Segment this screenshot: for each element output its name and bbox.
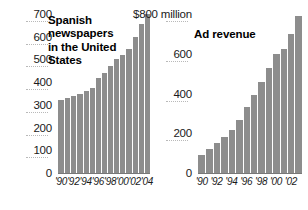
bar: [220, 137, 227, 173]
bar: [280, 49, 287, 173]
chart-panel-ad-revenue: 0200400600$800 million Ad revenue '90'92…: [154, 0, 308, 210]
bar: [272, 54, 279, 173]
x-axis-labels-right: '90'92'94'96'98'00'02: [154, 176, 308, 190]
y-tick-label: 100: [33, 144, 52, 156]
y-tick-label: 400: [33, 76, 52, 88]
x-axis-labels-left: '90'92'94'96'98'00'02'04: [0, 176, 154, 190]
x-tick-label: '96: [240, 176, 252, 187]
bar: [294, 16, 301, 173]
y-tick-stub: [26, 44, 48, 45]
x-tick-label: '98: [255, 176, 267, 187]
dual-bar-chart-figure: 0100200300400500600700 Spanishnewspapers…: [0, 0, 308, 210]
y-tick-label: 600: [173, 48, 192, 60]
bar: [198, 155, 205, 173]
y-tick-label: 400: [173, 88, 192, 100]
x-tick-label: '02: [285, 176, 297, 187]
chart-title-line: Ad revenue: [194, 28, 256, 41]
x-tick-label: '92: [210, 176, 222, 187]
chart-panel-spanish-newspapers: 0100200300400500600700 Spanishnewspapers…: [0, 0, 154, 210]
bar: [144, 14, 150, 173]
bar: [250, 95, 257, 174]
bar: [257, 82, 264, 173]
x-tick-label: '94: [225, 176, 237, 187]
chart-title-line: newspapers: [48, 27, 116, 40]
chart-title-line: States: [48, 54, 116, 67]
bar: [265, 68, 272, 173]
y-tick-stub: [166, 61, 188, 62]
x-tick-label: '00: [116, 176, 128, 187]
y-tick-stub: [166, 101, 188, 102]
chart-title-line: in the United: [48, 41, 116, 54]
y-tick-label: 300: [33, 99, 52, 111]
x-tick-label: '96: [92, 176, 104, 187]
x-tick-label: '04: [141, 176, 153, 187]
y-tick-label: 200: [173, 127, 192, 139]
bar: [235, 120, 242, 173]
x-tick-label: '90: [196, 176, 208, 187]
bar: [213, 143, 220, 173]
x-tick-label: '90: [55, 176, 67, 187]
y-tick-stub: [26, 157, 48, 158]
x-tick-label: '92: [67, 176, 79, 187]
chart-title-ad-revenue: Ad revenue: [194, 28, 256, 41]
y-tick-stub: [166, 140, 188, 141]
y-tick-stub: [26, 66, 48, 67]
x-tick-label: '94: [80, 176, 92, 187]
y-tick-stub: [26, 89, 48, 90]
bar: [287, 34, 294, 173]
x-axis-line: [58, 173, 150, 174]
bar: [243, 107, 250, 173]
y-tick-stub: [26, 21, 48, 22]
x-axis-line: [198, 173, 302, 174]
x-tick-label: '98: [104, 176, 116, 187]
chart-title-line: Spanish: [48, 14, 116, 27]
y-tick-label: 200: [33, 122, 52, 134]
bar: [205, 149, 212, 173]
chart-title-spanish-newspapers: Spanishnewspapersin the UnitedStates: [48, 14, 116, 68]
y-tick-stub: [26, 112, 48, 113]
y-tick-label: $800 million: [133, 8, 192, 20]
x-tick-label: '00: [270, 176, 282, 187]
bar: [228, 130, 235, 173]
y-tick-stub: [26, 135, 48, 136]
y-tick-stub: [166, 21, 188, 22]
x-tick-label: '02: [129, 176, 141, 187]
